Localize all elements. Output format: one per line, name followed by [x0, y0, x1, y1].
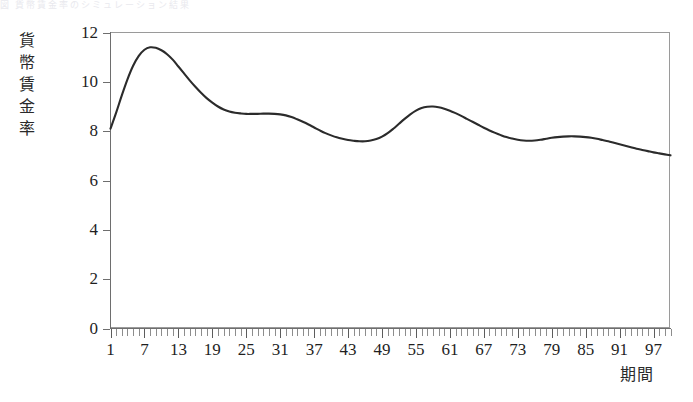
figure-container: 図 貨幣賃金率のシミュレーション結果 貨 幣 賃 金 率 024681012 1…: [0, 0, 693, 402]
series-layer: [0, 0, 693, 402]
x-axis-label: 期間: [620, 366, 654, 384]
line-series-money-wage-rate: [111, 47, 671, 155]
